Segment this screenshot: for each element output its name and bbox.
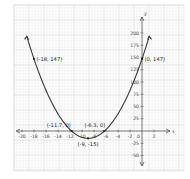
y-tick-label: 25 [133,116,139,121]
x-tick-label: -14 [54,134,62,139]
parabola-chart: xy -20-18-16-14-12-10-8-6-4-202-50-25255… [0,0,190,179]
y-tick-label: 175 [130,43,139,48]
x-tick-label: -6 [104,134,109,139]
x-tick-label: -4 [116,134,121,139]
x-tick-label: -2 [128,134,133,139]
data-point [87,137,89,139]
point-label: (0, 147) [145,56,166,62]
point-label: (-18, 147) [37,56,63,62]
origin-label: 0 [137,134,140,139]
point-label: (-9, -15) [78,141,99,147]
x-tick-label: 2 [153,134,156,139]
y-tick-label: 200 [130,31,139,36]
x-axis-label: x [172,128,175,134]
y-tick-label: 150 [130,55,139,60]
point-label: (-6.3, 0) [84,122,105,128]
data-point [71,130,73,132]
data-point [141,58,143,60]
point-label: (-11.7, 0) [47,122,71,128]
y-tick-label: -50 [131,153,139,158]
data-point [33,58,35,60]
x-tick-label: -12 [66,134,74,139]
y-tick-label: -25 [131,141,139,146]
x-tick-label: -16 [42,134,50,139]
data-point [103,130,105,132]
y-tick-label: 50 [133,104,139,109]
x-tick-label: -18 [30,134,38,139]
y-axis-label: y [143,10,147,17]
y-tick-label: 75 [133,92,139,97]
x-tick-label: -20 [18,134,26,139]
